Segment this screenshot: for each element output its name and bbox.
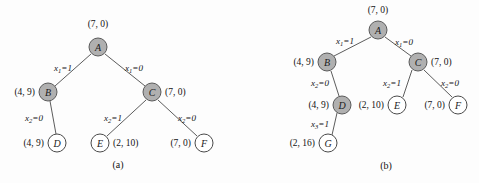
tree-node-A: A [89,38,108,57]
node-value-D: (4, 9) [308,100,329,110]
edge-B-D [331,71,339,96]
edge-label-C-F: x2=0 [178,113,196,124]
tree-node-B: B [318,53,337,72]
edge-B-D [50,101,56,134]
node-value-D: (4, 9) [23,138,44,148]
panel-a-edges [0,0,240,183]
edge-label-A-C: x1=0 [125,63,143,74]
tree-node-D: D [333,96,352,115]
decision-tree-figure: x1=1x1=0x2=0x2=1x2=0A(7, 0)B(4, 9)C(7, 0… [0,0,479,183]
panel-a: x1=1x1=0x2=0x2=1x2=0A(7, 0)B(4, 9)C(7, 0… [0,0,240,183]
edge-label-A-B: x1=1 [54,63,72,74]
edge-label-C-E: x2=1 [104,113,122,124]
tree-node-A: A [369,21,388,40]
node-value-E: (2, 10) [113,138,138,148]
edge-D-G [332,113,337,135]
edge-label-B-D: x2=0 [25,113,43,124]
edge-label-D-G: x3=1 [311,119,329,130]
tree-node-F: F [449,96,468,115]
edge-label-B-D: x2=0 [311,78,329,89]
panel-b-edges [240,0,479,183]
node-value-A: (7, 0) [88,19,109,29]
node-value-C: (7, 0) [165,87,186,97]
edge-C-E [403,70,412,97]
tree-node-C: C [409,53,428,72]
tree-node-G: G [319,134,338,153]
panel-b-caption: (b) [380,160,392,171]
tree-node-E: E [91,134,110,153]
tree-node-F: F [195,134,214,153]
edge-label-A-C: x1=0 [395,37,413,48]
edge-label-A-B: x1=1 [336,36,354,47]
tree-node-C: C [143,83,162,102]
node-value-B: (4, 9) [14,87,35,97]
panel-b: x1=1x1=0x2=0x2=1x2=0x3=1A(7, 0)B(4, 9)C(… [240,0,479,183]
edge-label-C-E: x2=1 [383,78,401,89]
node-value-C: (7, 0) [431,57,452,67]
tree-node-E: E [388,96,407,115]
node-value-F: (7, 0) [424,100,445,110]
panel-a-caption: (a) [112,159,123,170]
tree-node-D: D [48,134,67,153]
node-value-G: (2, 16) [290,138,315,148]
edge-label-C-F: x2=0 [441,78,459,89]
tree-node-B: B [39,83,58,102]
node-value-E: (2, 10) [359,100,384,110]
node-value-B: (4, 9) [293,57,314,67]
node-value-A: (7, 0) [368,5,389,15]
node-value-F: (7, 0) [170,138,191,148]
